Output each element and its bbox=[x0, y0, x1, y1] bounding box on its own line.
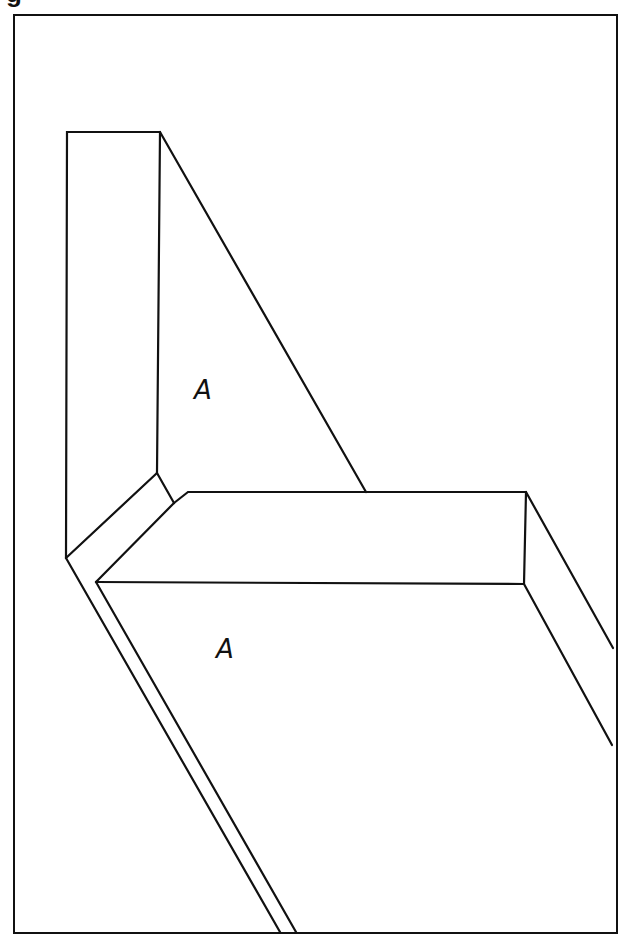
right-outer-diagonal bbox=[526, 492, 613, 648]
label-a-horizontal: A bbox=[216, 636, 234, 662]
figure-frame bbox=[14, 15, 617, 933]
right-inner-diagonal bbox=[524, 584, 612, 745]
miter-upper-diagonal bbox=[66, 473, 157, 558]
miter-short-edge bbox=[157, 473, 174, 503]
horizontal-front-edge bbox=[96, 582, 524, 584]
horizontal-top-back-edge bbox=[174, 492, 526, 503]
horizontal-right-vertical-edge bbox=[524, 492, 526, 584]
miter-lower-diagonal bbox=[96, 503, 174, 582]
label-a-upright: A bbox=[194, 377, 212, 403]
corner-joint-diagram bbox=[0, 0, 627, 950]
upright-outer-edge bbox=[66, 132, 160, 558]
left-inner-diagonal bbox=[96, 582, 296, 932]
left-outer-diagonal bbox=[66, 558, 280, 932]
upright-diagonal-edge bbox=[160, 132, 366, 492]
upright-inner-edge bbox=[157, 132, 160, 473]
